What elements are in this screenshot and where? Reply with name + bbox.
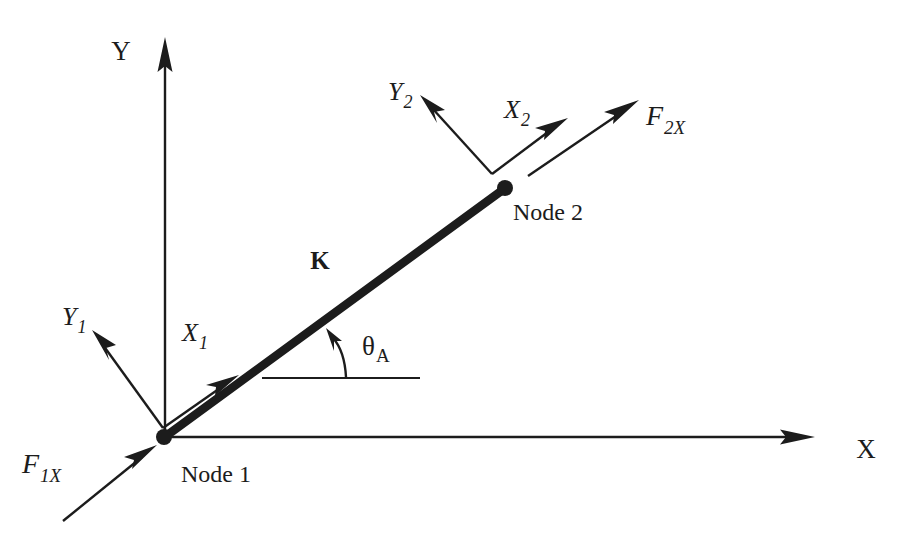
force-1x: F1X (21, 445, 157, 521)
diagram-canvas: Y X K Node 1 Node 2 θA (0, 0, 922, 550)
local-x1-axis-label-group: X1 (181, 318, 208, 353)
angle-theta-subscript: A (376, 345, 390, 366)
element-stiffness-label: K (310, 247, 330, 274)
global-x-axis-label: X (856, 434, 876, 464)
node2-label: Node 2 (513, 199, 583, 225)
force-2x-label-group: F2X (645, 100, 687, 138)
local-x1-axis-subscript: 1 (199, 333, 208, 353)
angle-theta-symbol: θ (362, 331, 375, 361)
local-x1-axis-line (163, 386, 223, 428)
local-y2-axis-subscript: 2 (403, 92, 412, 112)
global-x-axis: X (165, 430, 876, 465)
local-y1-axis-symbol: Y (62, 302, 79, 331)
force-1x-symbol: F (21, 448, 40, 479)
local-x2-axis-label-group: X2 (503, 95, 530, 130)
node1-dot (156, 429, 172, 445)
force-2x: F2X (528, 100, 687, 176)
force-2x-subscript: 2X (664, 117, 687, 138)
node2-dot (497, 180, 513, 196)
element-member: K (166, 189, 504, 436)
local-x1-axis-symbol: X (181, 318, 199, 347)
local-axes-node1: Y1 X1 (62, 302, 239, 428)
global-y-axis: Y (111, 36, 172, 437)
local-axes-node2: Y2 X2 (388, 77, 568, 174)
angle-arc (333, 338, 346, 377)
local-y2-axis-line (432, 108, 492, 174)
local-x2-axis-symbol: X (503, 95, 521, 124)
force-1x-subscript: 1X (40, 465, 63, 486)
local-y1-axis-arrowhead (92, 330, 116, 360)
angle-theta-label-group: θA (362, 331, 390, 366)
global-y-axis-label: Y (111, 36, 131, 66)
local-x2-axis-subscript: 2 (521, 110, 530, 130)
force-1x-arrowhead (124, 445, 157, 469)
force-2x-symbol: F (645, 100, 664, 131)
local-y2-axis-label-group: Y2 (388, 77, 412, 112)
local-y2-axis-symbol: Y (388, 77, 405, 106)
element-line (166, 189, 504, 436)
force-1x-line (63, 457, 142, 521)
force-1x-label-group: F1X (21, 448, 63, 486)
local-y1-axis-subscript: 1 (77, 317, 86, 337)
force-2x-line (528, 112, 622, 176)
node1-label: Node 1 (181, 461, 251, 487)
local-x2-axis-line (492, 129, 552, 174)
local-y1-axis-line (103, 345, 163, 428)
truss-element-diagram: Y X K Node 1 Node 2 θA (0, 0, 922, 550)
local-y1-axis-label-group: Y1 (62, 302, 86, 337)
